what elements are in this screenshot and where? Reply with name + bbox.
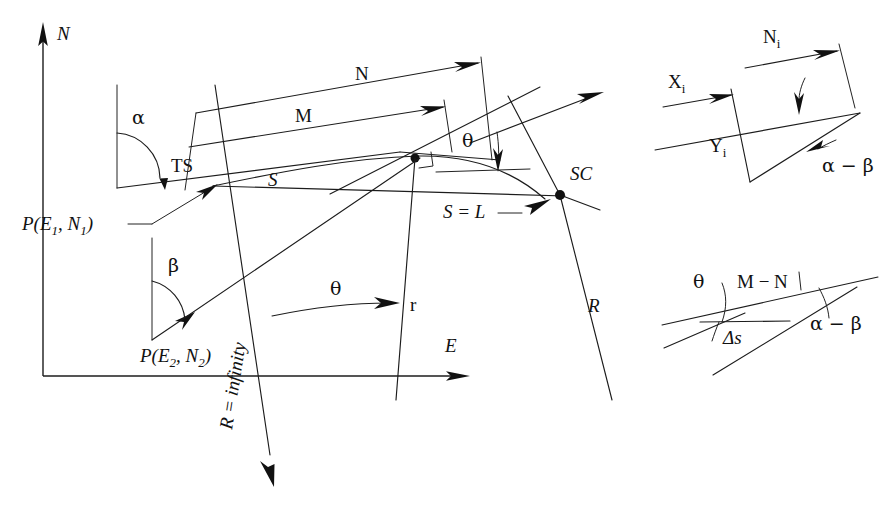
s-equals-l-label: S = L — [443, 201, 485, 222]
dim-m-line — [189, 107, 443, 147]
alpha-arc — [117, 133, 160, 178]
radius-r-big-line — [560, 195, 612, 400]
inset-top-baseline — [655, 113, 860, 150]
dim-n-label: N — [355, 63, 369, 84]
theta-top-reference-line — [436, 169, 530, 172]
radius-r-line — [396, 158, 415, 400]
spiral-curve-path — [213, 156, 545, 199]
long-chord-group — [213, 186, 565, 196]
long-chord-line — [213, 186, 565, 196]
spiral-curve-figure: N E α R = infinity TS P(E1, N1) — [0, 0, 896, 522]
theta-bottom-arc — [272, 303, 390, 316]
inset-top-yi-label: Yi — [709, 135, 727, 160]
sc-label: SC — [570, 163, 593, 184]
spiral-curve-group: S — [213, 156, 545, 199]
dim-n-right-extension — [481, 57, 492, 160]
radius-r-small-label: r — [410, 294, 417, 315]
inset-top-xi-arrowhead — [709, 94, 734, 104]
inset-top-ni-extension — [839, 44, 855, 108]
inset-bottom-group: θ M − N Δs α − β — [662, 270, 878, 375]
inset-top-alpha-minus-beta-label: α − β — [822, 154, 874, 176]
arc-s-label: S — [268, 169, 278, 190]
east-axis-label: E — [444, 335, 457, 356]
forward-tangent-group — [470, 92, 604, 143]
inset-bottom-m-minus-n-label: M − N — [737, 271, 788, 292]
theta-top-label: θ — [462, 129, 473, 151]
alpha-arc-arrowhead — [156, 171, 169, 191]
ts-callout-leader — [152, 192, 205, 224]
inset-bottom-delta-s-label: Δs — [722, 327, 742, 348]
dim-m-label: M — [295, 105, 312, 126]
radius-r-big-label: R — [587, 295, 600, 316]
inset-top-ab-arrowhead — [806, 140, 830, 152]
sc-dot — [555, 190, 565, 200]
s-equals-l-arrowhead — [524, 199, 551, 215]
midpoint-group — [330, 87, 540, 400]
alpha-angle-group: α — [117, 85, 168, 190]
forward-tangent-arrowhead — [577, 92, 604, 104]
sc-chord-extension — [560, 195, 600, 210]
ts-normal-group: R = infinity — [215, 85, 275, 487]
r-infinity-label: R = infinity — [215, 340, 250, 432]
dim-m-arrowhead — [420, 106, 446, 116]
inset-top-ni-label: Ni — [763, 26, 781, 51]
theta-top-group: θ — [436, 129, 530, 172]
alpha-label: α — [132, 106, 145, 128]
midpoint-tangent-line — [330, 87, 540, 194]
inset-bottom-theta-label: θ — [693, 270, 704, 292]
north-axis-label: N — [56, 23, 71, 44]
diagram-root: N E α R = infinity TS P(E1, N1) — [0, 0, 896, 522]
beta-angle-group: β P(E2, N2) — [139, 158, 420, 370]
inset-top-group: Xi Yi Ni α − β — [655, 26, 874, 182]
inset-bottom-theta-arc — [722, 283, 726, 322]
p1-label: P(E1, N1) — [21, 213, 93, 238]
theta-bottom-label: θ — [330, 277, 341, 299]
dim-n-line — [196, 63, 478, 113]
inset-bottom-mn-tick — [799, 272, 801, 290]
inset-bottom-delta-s-arc — [712, 322, 719, 341]
inset-top-xi-label: Xi — [668, 71, 686, 96]
r-infinity-arrowhead — [260, 461, 275, 487]
sc-upper-radius — [508, 96, 560, 195]
theta-bottom-group: θ r — [272, 277, 417, 316]
beta-arc-arrowhead — [175, 312, 195, 330]
inset-bottom-delta-s-line — [700, 321, 790, 322]
p2-label: P(E2, N2) — [139, 345, 211, 370]
beta-label: β — [168, 254, 179, 276]
beta-arc — [152, 281, 185, 320]
inset-bottom-alpha-minus-beta-label: α − β — [810, 312, 862, 334]
dimension-lines-group: N M — [185, 57, 492, 190]
dim-m-right-extension — [444, 100, 452, 152]
